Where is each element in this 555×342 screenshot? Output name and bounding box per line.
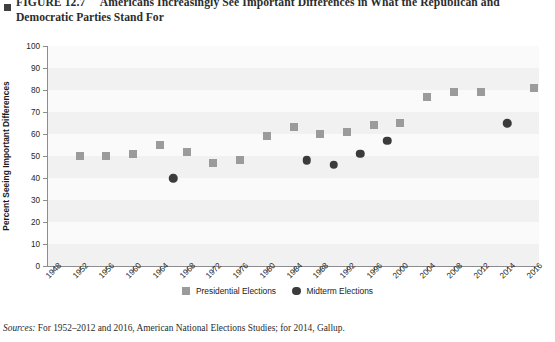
y-axis-tick-label: 100	[26, 42, 40, 51]
legend-label: Midterm Elections	[307, 286, 374, 296]
data-point-presidential	[263, 132, 271, 140]
grid-band	[48, 156, 539, 178]
source-label: Sources:	[3, 323, 35, 333]
y-axis-tick-label: 40	[31, 174, 40, 183]
data-point-midterm	[303, 156, 312, 165]
y-axis-tick-label: 50	[31, 152, 40, 161]
data-point-presidential	[343, 128, 351, 136]
data-point-presidential	[423, 93, 431, 101]
y-axis-tick	[43, 244, 48, 245]
y-axis-tick-label: 90	[31, 64, 40, 73]
y-axis-tick	[43, 222, 48, 223]
data-point-presidential	[156, 141, 164, 149]
figure-title-text-1: Americans Increasingly See Important Dif…	[100, 0, 500, 9]
y-axis-tick-label: 30	[31, 196, 40, 205]
y-axis-tick	[43, 90, 48, 91]
data-point-presidential	[370, 121, 378, 129]
y-axis-tick-label: 60	[31, 130, 40, 139]
data-point-presidential	[450, 88, 458, 96]
y-axis-tick-label: 20	[31, 218, 40, 227]
data-point-midterm	[356, 150, 365, 159]
data-point-presidential	[396, 119, 404, 127]
y-axis-tick	[43, 266, 48, 267]
legend-item: Presidential Elections	[182, 286, 276, 296]
y-axis-tick	[43, 68, 48, 69]
legend-label: Presidential Elections	[196, 286, 276, 296]
data-point-presidential	[477, 88, 485, 96]
data-point-presidential	[183, 148, 191, 156]
data-point-presidential	[236, 156, 244, 164]
data-point-presidential	[290, 123, 298, 131]
y-axis-tick	[43, 178, 48, 179]
grid-band	[48, 244, 539, 266]
data-point-presidential	[129, 150, 137, 158]
y-axis-title: Percent Seeing Important Differences	[1, 81, 11, 230]
figure-number: FIGURE 12.7	[16, 0, 85, 9]
title-bullet-icon	[4, 4, 11, 11]
data-point-midterm	[169, 174, 178, 183]
chart-area: Percent Seeing Important Differences 010…	[0, 30, 555, 280]
y-axis-tick	[43, 156, 48, 157]
y-axis-tick	[43, 134, 48, 135]
legend-item: Midterm Elections	[292, 286, 373, 296]
x-axis-tick-label: 1948	[44, 261, 63, 280]
data-point-midterm	[503, 119, 512, 128]
figure-title-text-2: Democratic Parties Stand For	[16, 11, 164, 24]
data-point-presidential	[76, 152, 84, 160]
chart-legend: Presidential ElectionsMidterm Elections	[0, 282, 555, 300]
data-point-presidential	[102, 152, 110, 160]
plot-region: 0102030405060708090100194819521956196019…	[47, 46, 539, 267]
source-note: Sources: For 1952–2012 and 2016, America…	[3, 323, 552, 333]
grid-band	[48, 68, 539, 90]
y-axis-tick	[43, 200, 48, 201]
figure-title-line-1: FIGURE 12.7 Americans Increasingly See I…	[16, 0, 500, 9]
y-axis-tick-label: 10	[31, 240, 40, 249]
data-point-presidential	[530, 84, 538, 92]
y-axis-tick-label: 70	[31, 108, 40, 117]
data-point-midterm	[383, 136, 392, 145]
source-text: For 1952–2012 and 2016, American Nationa…	[35, 323, 344, 333]
grid-band	[48, 200, 539, 222]
legend-marker-square	[182, 287, 190, 295]
data-point-midterm	[329, 161, 338, 170]
y-axis-tick	[43, 46, 48, 47]
y-axis-tick-label: 0	[35, 262, 40, 271]
data-point-presidential	[209, 159, 217, 167]
data-point-presidential	[316, 130, 324, 138]
y-axis-tick	[43, 112, 48, 113]
legend-marker-circle	[292, 287, 301, 296]
y-axis-tick-label: 80	[31, 86, 40, 95]
figure-title-block: FIGURE 12.7 Americans Increasingly See I…	[0, 0, 555, 30]
